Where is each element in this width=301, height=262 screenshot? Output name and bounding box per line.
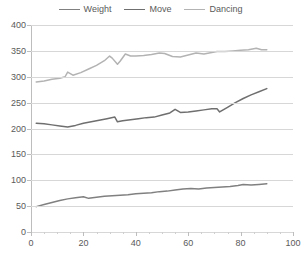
legend-item-dancing[interactable]: Dancing bbox=[184, 5, 242, 14]
y-gridline bbox=[31, 129, 293, 130]
x-tick-mark bbox=[241, 232, 242, 236]
y-tick-mark bbox=[27, 129, 31, 130]
y-tick-mark bbox=[27, 51, 31, 52]
legend-item-move[interactable]: Move bbox=[124, 5, 171, 14]
y-gridline bbox=[31, 154, 293, 155]
x-tick-minor bbox=[97, 232, 98, 234]
x-tick-mark bbox=[188, 232, 189, 236]
x-tick-label: 20 bbox=[69, 239, 97, 248]
y-gridline bbox=[31, 25, 293, 26]
x-tick-minor bbox=[44, 232, 45, 234]
legend-swatch-icon bbox=[59, 9, 80, 10]
x-tick-mark bbox=[136, 232, 137, 236]
x-tick-mark bbox=[31, 232, 32, 236]
legend-swatch-icon bbox=[184, 9, 205, 10]
x-tick-mark bbox=[293, 232, 294, 236]
legend-item-weight[interactable]: Weight bbox=[59, 5, 112, 14]
y-tick-mark bbox=[27, 103, 31, 104]
y-gridline bbox=[31, 206, 293, 207]
y-tick-label: 100 bbox=[0, 176, 26, 185]
x-tick-minor bbox=[149, 232, 150, 234]
chart-legend: WeightMoveDancing bbox=[0, 1, 301, 17]
x-tick-minor bbox=[254, 232, 255, 234]
series-line-weight bbox=[36, 184, 267, 207]
legend-swatch-icon bbox=[124, 9, 145, 10]
y-gridline bbox=[31, 51, 293, 52]
x-tick-minor bbox=[267, 232, 268, 234]
legend-label: Move bbox=[149, 5, 171, 14]
x-tick-mark bbox=[83, 232, 84, 236]
x-tick-label: 60 bbox=[174, 239, 202, 248]
x-tick-minor bbox=[201, 232, 202, 234]
legend-label: Dancing bbox=[209, 5, 242, 14]
x-tick-minor bbox=[214, 232, 215, 234]
y-tick-label: 400 bbox=[0, 21, 26, 30]
x-tick-minor bbox=[123, 232, 124, 234]
x-tick-minor bbox=[70, 232, 71, 234]
y-tick-label: 50 bbox=[0, 202, 26, 211]
x-tick-minor bbox=[162, 232, 163, 234]
plot-wrapper: 050100150200250300350400020406080100 bbox=[0, 18, 301, 262]
x-tick-label: 100 bbox=[279, 239, 301, 248]
y-tick-mark bbox=[27, 206, 31, 207]
x-tick-minor bbox=[228, 232, 229, 234]
x-tick-label: 0 bbox=[17, 239, 45, 248]
y-gridline bbox=[31, 180, 293, 181]
legend-label: Weight bbox=[84, 5, 112, 14]
y-tick-mark bbox=[27, 180, 31, 181]
line-chart: WeightMoveDancing 0501001502002503003504… bbox=[0, 0, 301, 262]
y-tick-label: 200 bbox=[0, 125, 26, 134]
x-tick-minor bbox=[175, 232, 176, 234]
y-tick-mark bbox=[27, 77, 31, 78]
y-tick-label: 0 bbox=[0, 228, 26, 237]
y-tick-mark bbox=[27, 25, 31, 26]
x-tick-minor bbox=[280, 232, 281, 234]
y-gridline bbox=[31, 103, 293, 104]
y-gridline bbox=[31, 77, 293, 78]
y-tick-mark bbox=[27, 154, 31, 155]
x-tick-minor bbox=[57, 232, 58, 234]
x-tick-label: 80 bbox=[227, 239, 255, 248]
x-tick-label: 40 bbox=[122, 239, 150, 248]
x-tick-minor bbox=[110, 232, 111, 234]
y-tick-label: 300 bbox=[0, 73, 26, 82]
y-tick-label: 150 bbox=[0, 150, 26, 159]
series-line-move bbox=[36, 89, 267, 127]
y-tick-label: 350 bbox=[0, 47, 26, 56]
y-tick-label: 250 bbox=[0, 99, 26, 108]
